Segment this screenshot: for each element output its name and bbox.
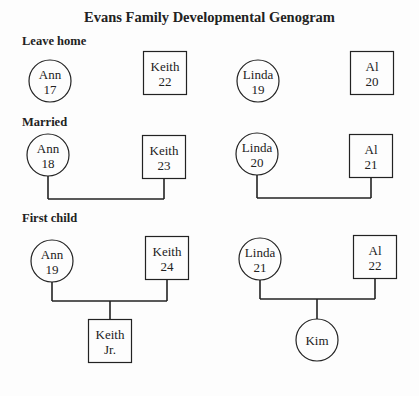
stage0-couple1-female-name: Linda — [243, 67, 274, 82]
stage0-couple1-male-name: Al — [366, 59, 379, 74]
stage0-couple0-male-age: 22 — [159, 74, 172, 89]
stage2-couple1-male-name: Al — [369, 243, 382, 258]
stage1-couple1-female-name: Linda — [242, 140, 273, 155]
stage2-couple0-male-age: 24 — [161, 259, 175, 274]
stage2-couple1-male-age: 22 — [369, 258, 382, 273]
stage0-couple1-male-age: 20 — [366, 74, 379, 89]
stage0-couple1-female-age: 19 — [252, 82, 265, 97]
stage0-couple0-female-name: Ann — [39, 67, 62, 82]
stage2-couple0-female-age: 19 — [46, 262, 59, 277]
stage1-couple0-female-name: Ann — [37, 141, 60, 156]
stage1-couple0-female-age: 18 — [42, 156, 55, 171]
stage0-couple0-male-name: Keith — [151, 59, 180, 74]
stage1-couple0-male-name: Keith — [150, 143, 179, 158]
stage2-couple0-child-name: Keith — [96, 327, 125, 342]
stage2-couple0-female-name: Ann — [41, 247, 64, 262]
stage0-couple0-female-age: 17 — [44, 82, 58, 97]
stage1-couple1-male-name: Al — [365, 142, 378, 157]
stage2-couple0-male-name: Keith — [153, 244, 182, 259]
stage2-couple1-female-name: Linda — [245, 245, 276, 260]
stage2-couple0-child-age: Jr. — [104, 342, 116, 357]
genogram-canvas: Evans Family Developmental Genogram Leav… — [0, 0, 419, 396]
stage1-couple1-female-age: 20 — [251, 155, 264, 170]
stage1-couple0-male-age: 23 — [158, 158, 171, 173]
genogram-svg: Ann17Keith22Linda19Al20Ann18Keith23Linda… — [0, 0, 419, 396]
stage2-couple1-female-age: 21 — [254, 260, 267, 275]
stage1-couple1-male-age: 21 — [365, 157, 378, 172]
stage2-couple1-child-name: Kim — [305, 333, 328, 348]
